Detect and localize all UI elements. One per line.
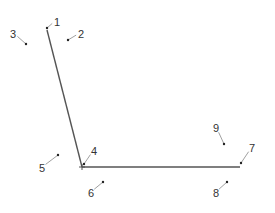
point-marker <box>83 163 85 165</box>
leader-line <box>219 182 227 189</box>
keypoint-diagram: 123456789 <box>0 0 275 213</box>
leader-line <box>241 152 249 163</box>
keypoint-9: 9 <box>213 122 225 145</box>
point-marker <box>226 181 228 183</box>
point-marker <box>67 39 69 41</box>
leader-line <box>84 155 90 164</box>
keypoint-7: 7 <box>240 142 255 164</box>
point-label: 7 <box>249 142 255 154</box>
keypoint-2: 2 <box>67 28 84 41</box>
keypoints: 123456789 <box>10 16 255 199</box>
leader-line <box>68 35 76 40</box>
keypoint-1: 1 <box>46 16 60 29</box>
line-segments <box>47 30 240 170</box>
keypoint-5: 5 <box>39 154 59 174</box>
keypoint-4: 4 <box>83 145 97 165</box>
point-label: 2 <box>78 28 84 40</box>
upper-segment <box>47 30 82 167</box>
leader-line <box>17 36 26 44</box>
point-label: 6 <box>88 187 94 199</box>
point-marker <box>46 27 48 29</box>
point-marker <box>223 143 225 145</box>
point-marker <box>25 43 27 45</box>
point-marker <box>102 181 104 183</box>
keypoint-8: 8 <box>213 181 228 199</box>
point-label: 8 <box>213 187 219 199</box>
leader-line <box>219 132 224 144</box>
leader-line <box>46 155 58 164</box>
leader-line <box>94 182 103 189</box>
keypoint-6: 6 <box>88 181 104 199</box>
point-marker <box>240 162 242 164</box>
point-marker <box>57 154 59 156</box>
point-label: 1 <box>54 16 60 28</box>
point-label: 5 <box>39 162 45 174</box>
point-label: 9 <box>213 122 219 134</box>
point-label: 3 <box>10 28 16 40</box>
point-label: 4 <box>91 145 97 157</box>
keypoint-3: 3 <box>10 28 27 45</box>
